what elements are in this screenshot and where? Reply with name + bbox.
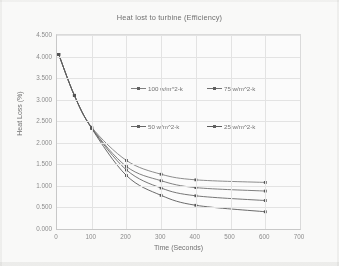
gridline-horizontal	[57, 143, 300, 144]
x-tick-label: 300	[145, 233, 175, 240]
y-tick-label: 4.000	[8, 52, 52, 59]
gridline-vertical	[231, 35, 232, 229]
chart-title: Heat lost to turbine (Efficiency)	[0, 13, 339, 22]
x-tick-label: 600	[249, 233, 279, 240]
chart-page: Heat lost to turbine (Efficiency) Heat L…	[0, 0, 339, 266]
x-tick-label: 100	[76, 233, 106, 240]
y-tick-label: 3.500	[8, 74, 52, 81]
data-point-marker	[73, 94, 76, 97]
gridline-horizontal	[57, 78, 300, 79]
gridline-horizontal	[57, 121, 300, 122]
y-tick-label: 0.000	[8, 225, 52, 232]
data-point-marker	[57, 53, 60, 56]
gridline-horizontal	[57, 57, 300, 58]
y-tick-label: 3.000	[8, 95, 52, 102]
x-tick-label: 0	[41, 233, 71, 240]
gridline-vertical	[265, 35, 266, 229]
x-tick-label: 200	[110, 233, 140, 240]
gridline-vertical	[161, 35, 162, 229]
gridline-vertical	[126, 35, 127, 229]
series-layer	[57, 35, 300, 229]
y-axis-tick-labels: 0.0000.5001.0001.5002.0002.5003.0003.500…	[6, 34, 52, 230]
y-tick-label: 2.000	[8, 138, 52, 145]
x-tick-label: 400	[180, 233, 210, 240]
gridline-horizontal	[57, 207, 300, 208]
gridline-horizontal	[57, 164, 300, 165]
x-axis-title: Time (Seconds)	[56, 244, 301, 251]
plot-area: 100 w/m^2-k75 w/m^2-k50 w/m^2-k25 w/m^2-…	[56, 34, 301, 230]
gridline-horizontal	[57, 35, 300, 36]
y-tick-label: 2.500	[8, 117, 52, 124]
y-tick-label: 0.500	[8, 203, 52, 210]
y-tick-label: 1.000	[8, 181, 52, 188]
gridline-vertical	[92, 35, 93, 229]
y-tick-label: 1.500	[8, 160, 52, 167]
x-tick-label: 500	[215, 233, 245, 240]
gridline-vertical	[196, 35, 197, 229]
gridline-horizontal	[57, 186, 300, 187]
x-tick-label: 700	[284, 233, 314, 240]
y-tick-label: 4.500	[8, 31, 52, 38]
gridline-horizontal	[57, 100, 300, 101]
